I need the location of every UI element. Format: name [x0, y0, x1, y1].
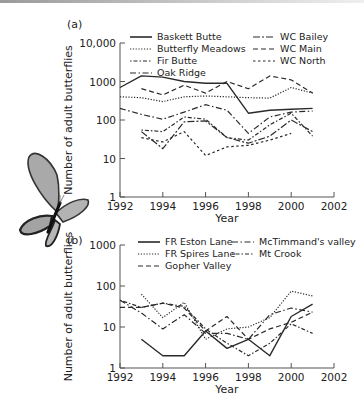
series-line-mt-crook	[120, 300, 313, 356]
legend-label: McTimmand's valley	[259, 236, 356, 247]
x-axis-title: Year	[214, 383, 239, 396]
legend-label: Butterfly Meadows	[157, 43, 246, 54]
series-line-fr-eston-lane	[141, 304, 312, 356]
series-line-fr-spires-lane	[141, 291, 312, 339]
y-tick-label: 1000	[89, 239, 116, 251]
legend-label: Mt Crook	[259, 248, 302, 259]
figure-canvas: (a)110100100010,000199219941996199820002…	[0, 0, 364, 405]
x-axis-title: Year	[214, 212, 239, 225]
legend-label: Gopher Valley	[165, 260, 232, 271]
series-line-wc-main	[141, 76, 312, 95]
series-line-wc-north	[141, 132, 291, 156]
x-tick-label: 1994	[149, 371, 176, 383]
x-tick-label: 1992	[107, 371, 134, 383]
panel-b-chart: (b)1101001000199219941996199820002002Yea…	[62, 231, 356, 396]
butterfly-illustration	[20, 154, 88, 247]
x-tick-label: 2002	[321, 200, 348, 212]
x-tick-label: 1998	[235, 200, 262, 212]
legend-label: WC Main	[280, 43, 322, 54]
panel-a-chart: (a)110100100010,000199219941996199820002…	[62, 18, 347, 225]
legend-label: FR Eston Lane	[165, 236, 233, 247]
x-tick-label: 1996	[192, 371, 219, 383]
x-tick-label: 2000	[278, 200, 305, 212]
x-tick-label: 1996	[192, 200, 219, 212]
x-tick-label: 1994	[149, 200, 176, 212]
x-tick-label: 2000	[278, 371, 305, 383]
legend-label: WC Bailey	[280, 31, 329, 42]
x-tick-label: 2002	[321, 371, 348, 383]
legend-label: WC North	[280, 55, 326, 66]
legend-label: FR Spires Lane	[165, 248, 235, 259]
y-tick-label: 10	[103, 153, 116, 165]
y-tick-label: 10	[103, 321, 116, 333]
y-axis-title: Number of adult butterflies	[62, 45, 75, 195]
y-tick-label: 100	[96, 114, 116, 126]
x-tick-label: 1998	[235, 371, 262, 383]
y-tick-label: 100	[96, 280, 116, 292]
x-tick-label: 1992	[107, 200, 134, 212]
y-tick-label: 1000	[89, 76, 116, 88]
legend-label: Oak Ridge	[157, 67, 206, 78]
legend-label: Baskett Butte	[157, 31, 222, 42]
panel-label: (a)	[67, 18, 82, 31]
y-axis-title: Number of adult butterflies	[62, 231, 75, 381]
y-tick-label: 10,000	[79, 37, 116, 49]
series-line-butterfly-meadows	[120, 88, 313, 102]
series-line-mctimmand-s-valley	[120, 300, 313, 339]
series-line-fir-butte	[141, 113, 312, 140]
legend-label: Fir Butte	[157, 55, 197, 66]
